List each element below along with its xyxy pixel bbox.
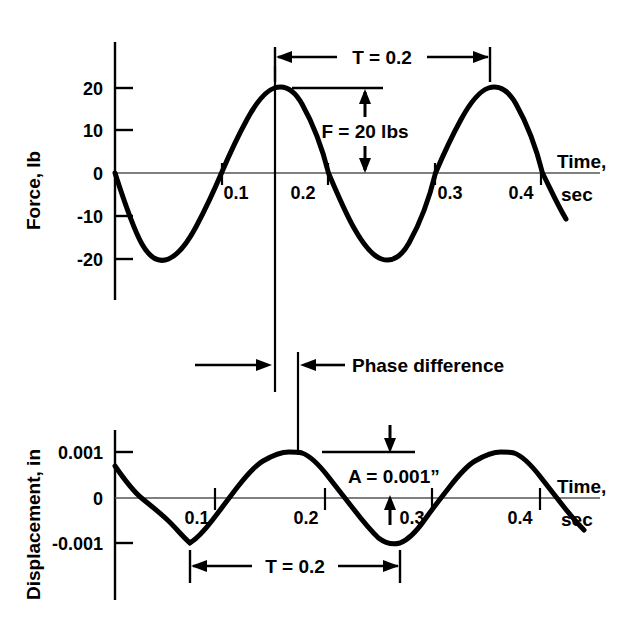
displacement-ytick-label-zero: 0 bbox=[93, 489, 103, 509]
displacement-xtick-label-0.4: 0.4 bbox=[507, 508, 532, 528]
displacement-x-axis-title-line1: Time, bbox=[557, 476, 606, 497]
phase-difference-annotation: Phase difference bbox=[195, 355, 504, 376]
force-ytick-label-neg10: -10 bbox=[77, 207, 103, 227]
force-chart: 20 10 0 -10 -20 0.1 0.2 0.3 0.4 Force, l… bbox=[23, 42, 606, 392]
force-ytick-label-10: 10 bbox=[83, 121, 103, 141]
force-ytick-label-0: 0 bbox=[93, 164, 103, 184]
figure-canvas: 20 10 0 -10 -20 0.1 0.2 0.3 0.4 Force, l… bbox=[0, 0, 643, 629]
phase-difference-label: Phase difference bbox=[352, 355, 504, 376]
displacement-period-right-arrowhead bbox=[383, 560, 399, 572]
force-ytick-label-20: 20 bbox=[83, 79, 103, 99]
force-amplitude-label: F = 20 lbs bbox=[321, 121, 408, 142]
displacement-y-axis-title: Displacement, in bbox=[23, 449, 44, 600]
displacement-ytick-label-neg: -0.001 bbox=[52, 534, 103, 554]
force-ytick-label-neg20: -20 bbox=[77, 250, 103, 270]
force-amplitude-down-arrowhead bbox=[359, 158, 371, 173]
displacement-amplitude-label: A = 0.001” bbox=[348, 466, 440, 487]
displacement-period-label: T = 0.2 bbox=[265, 556, 325, 577]
force-xtick-label-0.2: 0.2 bbox=[290, 183, 315, 203]
force-x-axis-title-line2: sec bbox=[561, 184, 593, 205]
force-period-label: T = 0.2 bbox=[352, 47, 412, 68]
force-y-axis-title: Force, lb bbox=[23, 151, 44, 230]
displacement-chart: 0.001 0 -0.001 0.1 0.2 0.3 0.4 Displacem… bbox=[23, 352, 606, 600]
force-period-left-arrowhead bbox=[276, 51, 292, 63]
displacement-amplitude-down-arrowhead bbox=[384, 438, 396, 453]
force-xtick-label-0.4: 0.4 bbox=[508, 183, 533, 203]
force-xtick-label-0.3: 0.3 bbox=[437, 183, 462, 203]
phase-left-arrowhead bbox=[256, 359, 272, 371]
force-xtick-label-0.1: 0.1 bbox=[223, 183, 248, 203]
force-x-axis-title-line1: Time, bbox=[557, 151, 606, 172]
waveform-figure: 20 10 0 -10 -20 0.1 0.2 0.3 0.4 Force, l… bbox=[0, 0, 643, 629]
displacement-period-left-arrowhead bbox=[191, 560, 207, 572]
force-period-right-arrowhead bbox=[473, 51, 489, 63]
force-amplitude-up-arrowhead bbox=[359, 89, 371, 104]
displacement-ytick-label-pos: 0.001 bbox=[58, 443, 103, 463]
displacement-xtick-label-0.2: 0.2 bbox=[293, 508, 318, 528]
phase-right-arrowhead bbox=[300, 359, 316, 371]
